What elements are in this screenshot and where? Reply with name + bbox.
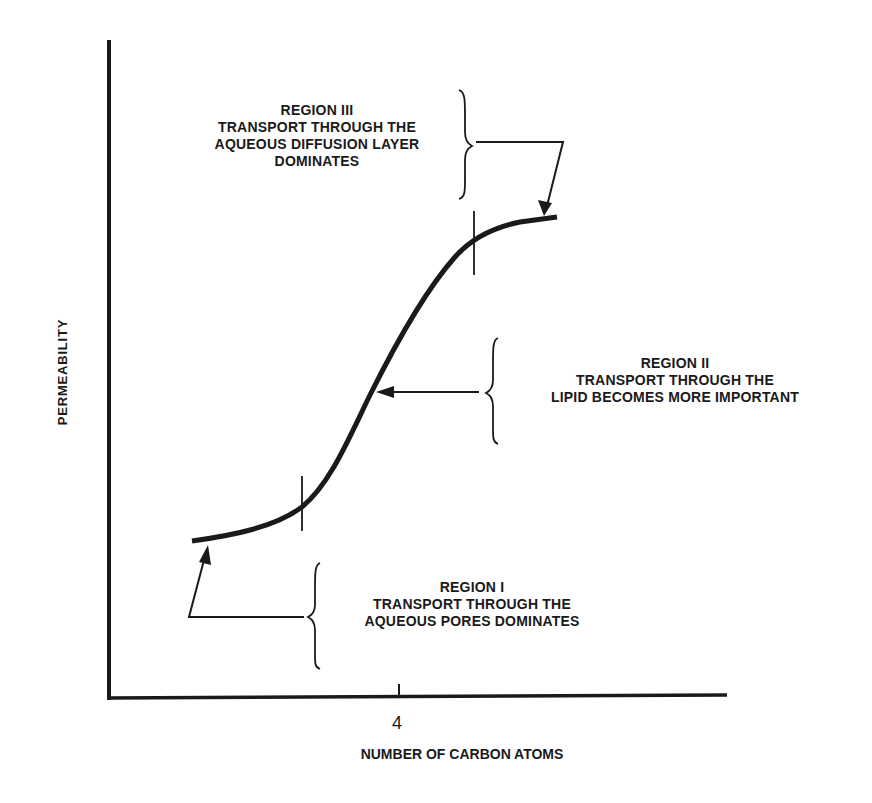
- region2-annotation: REGION II TRANSPORT THROUGH THE LIPID BE…: [505, 355, 845, 406]
- x-axis-label: NUMBER OF CARBON ATOMS: [361, 746, 564, 762]
- permeability-curve: [192, 217, 557, 541]
- region1-line2: TRANSPORT THROUGH THE: [322, 596, 622, 613]
- region3-brace: [459, 90, 472, 199]
- region1-annotation: REGION I TRANSPORT THROUGH THE AQUEOUS P…: [322, 579, 622, 630]
- region1-title: REGION I: [322, 579, 622, 596]
- x-tick-label-4: 4: [392, 713, 402, 734]
- region1-brace: [308, 563, 320, 669]
- region3-line4: DOMINATES: [182, 153, 452, 170]
- y-axis-label: PERMEABILITY: [55, 319, 70, 425]
- region3-annotation: REGION III TRANSPORT THROUGH THE AQUEOUS…: [182, 102, 452, 170]
- region1-line3: AQUEOUS PORES DOMINATES: [322, 613, 622, 630]
- region2-title: REGION II: [505, 355, 845, 372]
- region2-line2: TRANSPORT THROUGH THE: [505, 372, 845, 389]
- region3-title: REGION III: [182, 102, 452, 119]
- region3-line2: TRANSPORT THROUGH THE: [182, 119, 452, 136]
- region1-arrow: [189, 560, 304, 617]
- region2-brace: [486, 338, 498, 444]
- region3-arrow: [476, 142, 563, 210]
- region2-arrowhead: [376, 386, 394, 398]
- region3-line3: AQUEOUS DIFFUSION LAYER: [182, 136, 452, 153]
- x-axis: [107, 695, 727, 698]
- region1-arrowhead: [199, 545, 211, 565]
- region3-arrowhead: [538, 200, 552, 216]
- region2-line3: LIPID BECOMES MORE IMPORTANT: [505, 389, 845, 406]
